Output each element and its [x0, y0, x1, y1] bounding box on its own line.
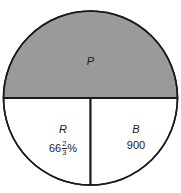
circle-diagram-figure: P R 6623% B 900: [0, 0, 181, 193]
region-r-value-suffix: %: [67, 142, 77, 154]
region-r-label: R: [59, 123, 67, 135]
circle-diagram-graphic: [0, 0, 181, 193]
region-r-value-whole: 66: [49, 142, 61, 154]
region-b-value: 900: [96, 140, 176, 151]
region-p-label-group: P: [0, 52, 181, 68]
region-b-label: B: [132, 123, 140, 135]
region-b-label-group: B 900: [96, 120, 176, 151]
region-p-label: P: [87, 55, 95, 67]
